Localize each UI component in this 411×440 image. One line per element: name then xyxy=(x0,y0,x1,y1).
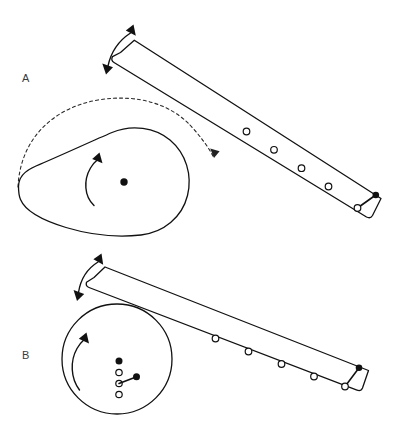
panel-a-motion-arrow-path xyxy=(190,125,214,158)
panel-a: A xyxy=(18,25,381,237)
panel-b-disc-pin-3 xyxy=(116,391,122,397)
panel-b: B xyxy=(22,254,369,415)
panel-a-cam-hub xyxy=(120,178,127,185)
panel-b-lever-hole-1 xyxy=(212,335,219,342)
panel-a-lever-hole-2 xyxy=(271,147,278,154)
panel-a-lever-hole-4 xyxy=(325,183,332,190)
panel-b-disc-hub xyxy=(116,358,123,365)
panel-b-lever-hole-2 xyxy=(245,348,252,355)
panel-a-cam-profile xyxy=(19,128,190,236)
panel-b-lever-hole-3 xyxy=(278,361,285,368)
figure-root: A xyxy=(0,0,411,440)
panel-b-disc-pin-1 xyxy=(116,369,122,375)
panel-b-lever-hole-4 xyxy=(311,373,318,380)
panel-b-oscillation-arrowhead-up xyxy=(93,254,103,265)
panel-a-oscillation-arrowhead-up xyxy=(126,25,136,36)
panel-a-connector-ball xyxy=(373,192,380,199)
panel-b-crank-ball xyxy=(133,373,140,380)
panel-b-label: B xyxy=(22,349,30,361)
panel-a-label: A xyxy=(22,72,30,84)
panel-a-lever-hole-3 xyxy=(298,165,305,172)
panel-a-lever-hole-1 xyxy=(243,128,250,135)
mechanism-diagram: A xyxy=(0,0,411,440)
panel-b-connector-ball xyxy=(356,365,363,372)
panel-b-connector-pin xyxy=(342,383,349,390)
panel-a-connector-pin xyxy=(354,205,361,212)
